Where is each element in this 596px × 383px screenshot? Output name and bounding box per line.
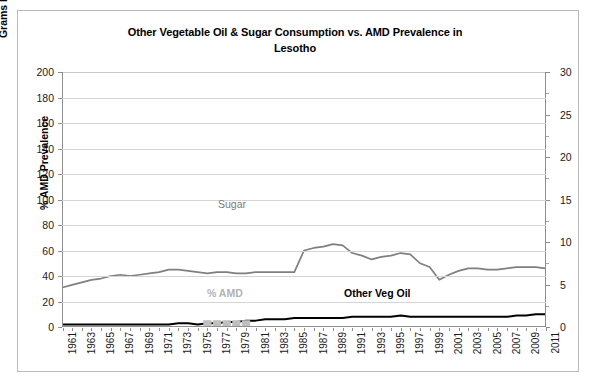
y-axis-right-tick-label: 20 — [560, 151, 572, 163]
y-axis-left-title: Grams Per Capita Per Day — [0, 0, 9, 88]
x-axis-tick-mark — [236, 328, 237, 331]
gridline — [62, 302, 546, 303]
x-axis-tick-label-text: 1965 — [105, 332, 116, 354]
x-axis-tick-mark — [265, 328, 266, 331]
x-axis-tick-label-text: 1985 — [298, 332, 309, 354]
gridline — [62, 123, 546, 124]
x-axis-tick-mark — [304, 328, 305, 331]
y-axis-right-minor-tick — [546, 136, 549, 137]
y-axis-right-tick-mark — [546, 115, 550, 116]
y-axis-left: 020406080100120140160180200 — [0, 60, 62, 340]
x-axis-tick-label-text: 1977 — [221, 332, 232, 354]
gridline — [62, 174, 546, 175]
y-axis-right-minor-tick — [546, 221, 549, 222]
y-axis-left-tick-label: 80 — [42, 219, 54, 231]
x-axis-tick-mark — [381, 328, 382, 331]
gridline — [62, 251, 546, 252]
chart-container: Other Vegetable Oil & Sugar Consumption … — [0, 0, 596, 383]
plot-area — [62, 72, 546, 327]
x-axis-tick-mark — [362, 328, 363, 331]
x-axis-tick-mark — [314, 328, 315, 331]
x-axis-tick-label-text: 1991 — [356, 332, 367, 354]
series-line-other-veg-oil — [63, 314, 546, 324]
x-axis-tick-mark — [420, 328, 421, 331]
y-axis-right-tick-label: 25 — [560, 109, 572, 121]
series-label-sugar: Sugar — [218, 198, 246, 210]
x-axis-tick-mark — [372, 328, 373, 331]
x-axis-tick-label-text: 1987 — [318, 332, 329, 354]
x-axis-tick-mark — [217, 328, 218, 331]
x-axis-tick-label: 2011 — [550, 332, 572, 343]
y-axis-right-tick-label: 5 — [560, 279, 566, 291]
x-axis-tick-mark — [439, 328, 440, 331]
x-axis-tick-label-text: 1983 — [279, 332, 290, 354]
x-axis-tick-mark — [488, 328, 489, 331]
x-axis-tick-mark — [188, 328, 189, 331]
x-axis-tick-mark — [227, 328, 228, 331]
x-axis-tick-label-text: 2007 — [511, 332, 522, 354]
x-axis-tick-label-text: 2001 — [453, 332, 464, 354]
x-axis-tick-mark — [101, 328, 102, 331]
x-axis-tick-label-text: 1963 — [86, 332, 97, 354]
x-axis-tick-label-text: 1975 — [202, 332, 213, 354]
gridline — [62, 98, 546, 99]
y-axis-right-tick-mark — [546, 72, 550, 73]
x-axis-tick-mark — [256, 328, 257, 331]
x-axis-tick-mark — [517, 328, 518, 331]
y-axis-right-minor-tick — [546, 93, 549, 94]
x-axis-tick-label-text: 1969 — [144, 332, 155, 354]
x-axis-tick-mark — [63, 328, 64, 331]
x-axis-tick-mark — [82, 328, 83, 331]
x-axis-tick-mark — [352, 328, 353, 331]
plot-border-top — [62, 72, 546, 73]
x-axis-tick-label-text: 1971 — [163, 332, 174, 354]
y-axis-left-tick-label: 0 — [48, 321, 54, 333]
x-axis-tick-mark — [285, 328, 286, 331]
y-axis-right-minor-tick — [546, 263, 549, 264]
x-axis-tick-label-text: 1997 — [414, 332, 425, 354]
x-axis-tick-mark — [391, 328, 392, 331]
x-axis-tick-mark — [149, 328, 150, 331]
x-axis-tick-label-text: 1961 — [67, 332, 78, 354]
x-axis-tick-mark — [294, 328, 295, 331]
x-axis-tick-label-text: 1979 — [240, 332, 251, 354]
x-axis-tick-mark — [468, 328, 469, 331]
x-axis-tick-mark — [333, 328, 334, 331]
x-axis-tick-label-text: 2009 — [530, 332, 541, 354]
series-label-amd: % AMD — [207, 287, 243, 299]
y-axis-left-tick-label: 40 — [42, 270, 54, 282]
y-axis-right-tick-mark — [546, 285, 550, 286]
y-axis-right-tick-mark — [546, 200, 550, 201]
x-axis-tick-mark — [546, 328, 547, 331]
x-axis-tick-mark — [497, 328, 498, 331]
x-axis-tick-mark — [120, 328, 121, 331]
x-axis-tick-mark — [401, 328, 402, 331]
x-axis-tick-label-text: 1989 — [337, 332, 348, 354]
x-axis-tick-mark — [449, 328, 450, 331]
x-axis-tick-label-text: 1993 — [376, 332, 387, 354]
y-axis-right-tick-mark — [546, 157, 550, 158]
x-axis-tick-label-text: 2011 — [550, 332, 561, 354]
x-axis-tick-mark — [526, 328, 527, 331]
x-axis-tick-mark — [91, 328, 92, 331]
gridline — [62, 149, 546, 150]
x-axis-tick-mark — [159, 328, 160, 331]
y-axis-right-minor-tick — [546, 178, 549, 179]
y-axis-right-minor-tick — [546, 306, 549, 307]
series-label-other-veg-oil: Other Veg Oil — [344, 287, 411, 299]
y-axis-right-tick-label: 15 — [560, 194, 572, 206]
chart-title-line-1: Other Vegetable Oil & Sugar Consumption … — [60, 24, 530, 40]
y-axis-right-title: % AMD Prevalence — [38, 116, 50, 210]
x-axis-tick-mark — [198, 328, 199, 331]
x-axis-tick-mark — [246, 328, 247, 331]
y-axis-right: 051015202530 — [546, 60, 596, 340]
x-axis-tick-mark — [478, 328, 479, 331]
x-axis-tick-label-text: 1981 — [260, 332, 271, 354]
gridline — [62, 276, 546, 277]
x-axis-tick-mark — [430, 328, 431, 331]
x-axis-tick-mark — [111, 328, 112, 331]
x-axis-tick-mark — [536, 328, 537, 331]
x-axis-tick-mark — [507, 328, 508, 331]
y-axis-left-tick-label: 20 — [42, 296, 54, 308]
x-axis-tick-mark — [130, 328, 131, 331]
